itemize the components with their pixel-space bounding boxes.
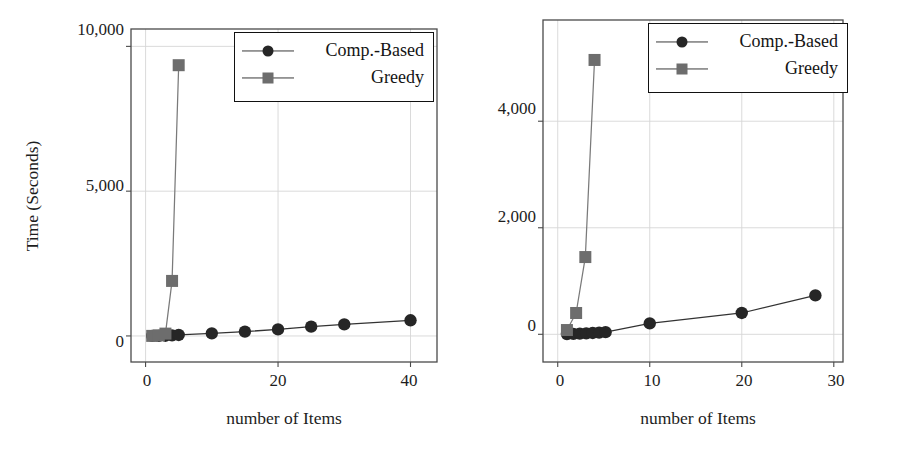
circle-marker-icon	[242, 41, 294, 61]
square-marker-icon	[656, 59, 708, 79]
legend-item-greedy: Greedy	[242, 64, 424, 91]
legend-item-comp-based: Comp.-Based	[656, 28, 838, 55]
legend-label: Greedy	[708, 58, 838, 79]
y-tick-label: 2,000	[452, 208, 536, 225]
y-tick-label: 10,000	[6, 21, 124, 38]
x-tick-label: 10	[644, 372, 661, 389]
chart-panel-right: 4,000 2,000 0 0 10 20 30 number of Items…	[452, 0, 904, 453]
legend-right: Comp.-Based Greedy	[648, 23, 848, 93]
x-tick-label: 30	[828, 372, 845, 389]
x-tick-label: 0	[143, 372, 152, 389]
chart-panel-left: 10,000 5,000 0 0 20 40 number of Items T…	[0, 0, 452, 453]
legend-label: Comp.-Based	[708, 31, 838, 52]
x-tick-label: 40	[401, 372, 418, 389]
legend-label: Greedy	[294, 67, 424, 88]
y-tick-label: 0	[452, 317, 536, 334]
y-tick-label: 0	[6, 333, 124, 350]
y-tick-label: 4,000	[452, 100, 536, 117]
legend-item-greedy: Greedy	[656, 55, 838, 82]
x-tick-label: 20	[736, 372, 753, 389]
y-axis-title: Time (Seconds)	[22, 141, 43, 252]
legend-left: Comp.-Based Greedy	[234, 32, 434, 102]
x-axis-title: number of Items	[226, 408, 342, 429]
legend-label: Comp.-Based	[294, 40, 424, 61]
x-tick-label: 0	[556, 372, 565, 389]
x-tick-label: 20	[270, 372, 287, 389]
legend-item-comp-based: Comp.-Based	[242, 37, 424, 64]
figure-root: 10,000 5,000 0 0 20 40 number of Items T…	[0, 0, 904, 453]
circle-marker-icon	[656, 32, 708, 52]
x-axis-title: number of Items	[640, 408, 756, 429]
square-marker-icon	[242, 68, 294, 88]
